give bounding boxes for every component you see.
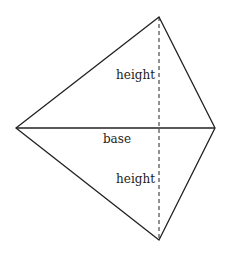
kite-diagram: height base height	[0, 0, 229, 254]
height-label-bottom: height	[116, 172, 155, 186]
height-label-top: height	[116, 68, 155, 82]
base-label: base	[103, 132, 131, 146]
